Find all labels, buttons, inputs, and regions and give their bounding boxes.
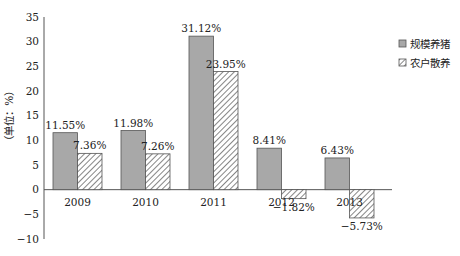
- legend-label: 规模养猪: [410, 38, 451, 50]
- data-label: −5.73%: [341, 220, 383, 232]
- legend-label: 农户散养: [410, 57, 451, 69]
- y-tick-label: 15: [26, 109, 39, 121]
- x-tick-label: 2009: [64, 196, 91, 208]
- y-axis-label: （单位：%）: [3, 86, 15, 146]
- y-tick-label: 35: [26, 11, 39, 23]
- bar-2011-household-farming: [214, 72, 239, 190]
- y-tick-label: 25: [26, 60, 39, 72]
- bar-2009-household-farming: [78, 153, 103, 189]
- bar-2010-household-farming: [146, 154, 171, 190]
- data-label: 6.43%: [321, 144, 354, 156]
- x-tick-label: 2010: [132, 196, 159, 208]
- y-tick-label: −10: [17, 233, 39, 245]
- data-label: 7.26%: [141, 140, 174, 152]
- y-tick-label: 10: [26, 134, 39, 146]
- legend-swatch: [399, 40, 406, 47]
- y-tick-label: 0: [32, 183, 39, 195]
- y-tick-label: −5: [24, 208, 39, 220]
- x-tick-label: 2011: [200, 196, 227, 208]
- bar-2013-scale-farming: [325, 158, 350, 190]
- y-tick-label: 5: [32, 159, 39, 171]
- data-label: 31.12%: [181, 22, 221, 34]
- legend: 规模养猪农户散养: [399, 38, 451, 69]
- data-label: 11.98%: [113, 117, 153, 129]
- data-label: 7.36%: [73, 139, 106, 151]
- legend-swatch: [399, 59, 406, 66]
- y-tick-label: 30: [26, 35, 39, 47]
- data-label: 11.55%: [45, 119, 85, 131]
- data-label: 23.95%: [206, 58, 246, 70]
- data-label: 8.41%: [253, 134, 286, 146]
- x-tick-label: 2013: [336, 196, 363, 208]
- data-label: −1.82%: [273, 201, 315, 213]
- y-tick-label: 20: [26, 85, 39, 97]
- bar-2012-scale-farming: [257, 148, 282, 189]
- bar-chart: 35302520151050−5−10（单位：%） 200911.55%7.36…: [0, 0, 460, 256]
